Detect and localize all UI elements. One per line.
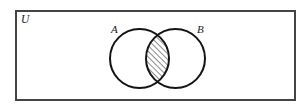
set-a-label: A <box>111 24 118 35</box>
venn-diagram-canvas <box>0 0 307 111</box>
set-b-label: B <box>197 24 204 35</box>
venn-diagram-figure: U A B <box>0 0 307 111</box>
universal-set-label: U <box>21 14 29 26</box>
